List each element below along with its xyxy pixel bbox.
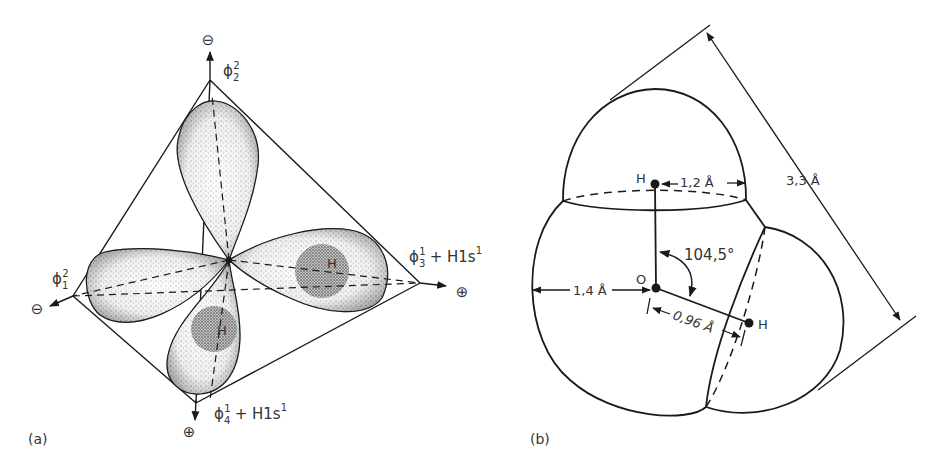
axis-arrow-left	[50, 296, 73, 306]
panel-label-b: (b)	[530, 431, 550, 447]
orbital-label-bottom: ϕ41+ H1s1	[214, 402, 287, 426]
bond-angle-label: 104,5°	[684, 246, 734, 264]
axis-arrow-right	[420, 283, 446, 286]
atom-label-hydrogen-right: H	[758, 317, 768, 332]
hydrogen-sphere-right	[295, 244, 349, 298]
sign-markers: ⊖ ⊖ ⊕ ⊕	[31, 31, 469, 441]
panel-label-a: (a)	[28, 431, 48, 447]
dimension-label-overall-width: 3,3 Å	[786, 173, 820, 188]
hydrogen-nucleus-right	[745, 319, 754, 328]
sp3-tetrahedron-diagram: H H ⊖ ⊖ ⊕ ⊕ ϕ22	[28, 31, 482, 447]
atom-label-hydrogen-top: H	[636, 171, 646, 186]
dimension-label-hydrogen-radius: 1,2 Å	[680, 175, 714, 190]
hydrogen-label-right: H	[327, 256, 337, 271]
orbital-label-right: ϕ31+ H1s1	[409, 245, 482, 269]
panel-b-labels: H O H 1,2 Å 1,4 Å 0,96 Å 3,3 Å 104,5° (b…	[530, 171, 820, 447]
dimension-label-oxygen-radius: 1,4 Å	[573, 283, 607, 298]
dimension-label-bond-length: 0,96 Å	[671, 307, 716, 335]
sign-plus-right-icon: ⊕	[456, 283, 469, 301]
oxygen-nucleus	[652, 284, 661, 293]
orbital-lobes	[86, 101, 387, 394]
orbital-label-left: ϕ12	[52, 268, 69, 291]
carbon-nucleus	[226, 257, 232, 263]
atom-label-oxygen: O	[636, 272, 646, 287]
axis-arrow-bottom	[195, 400, 196, 420]
sign-plus-bottom-icon: ⊕	[183, 423, 196, 441]
orbital-label-top: ϕ22	[223, 60, 240, 83]
sign-minus-left-icon: ⊖	[31, 300, 44, 318]
water-molecule-diagram	[532, 25, 916, 416]
axis-arrows	[50, 52, 446, 420]
hydrogen-sphere-bottom	[191, 306, 237, 352]
sign-minus-top-icon: ⊖	[202, 31, 215, 49]
bond-o-h-top	[655, 184, 656, 288]
hydrogen-nucleus-top	[651, 180, 660, 189]
